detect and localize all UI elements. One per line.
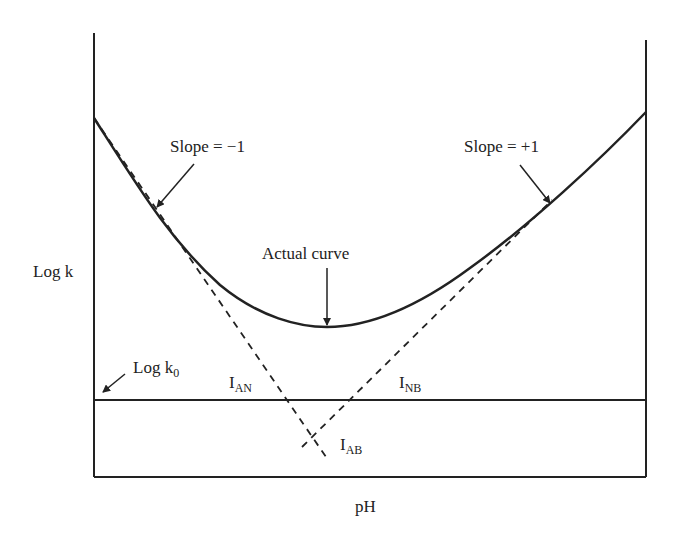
i-an-label: IAN — [229, 373, 252, 395]
log-k0-arrow — [103, 374, 125, 392]
x-axis-label: pH — [355, 497, 376, 516]
i-ab-label: IAB — [340, 435, 362, 457]
ph-rate-profile-diagram: Slope = −1 Slope = +1 Actual curve Log k… — [0, 0, 680, 542]
y-axis-label: Log k — [33, 262, 74, 281]
i-nb-label: INB — [399, 373, 421, 395]
slope-neg-asymptote — [94, 118, 326, 457]
slope-pos-asymptote — [302, 200, 552, 447]
slope-neg-label: Slope = −1 — [170, 137, 245, 156]
slope-neg-arrow — [157, 164, 194, 207]
log-k0-label: Log k0 — [133, 358, 179, 380]
actual-curve-label: Actual curve — [262, 244, 349, 263]
slope-pos-label: Slope = +1 — [464, 137, 539, 156]
slope-pos-arrow — [520, 165, 550, 203]
